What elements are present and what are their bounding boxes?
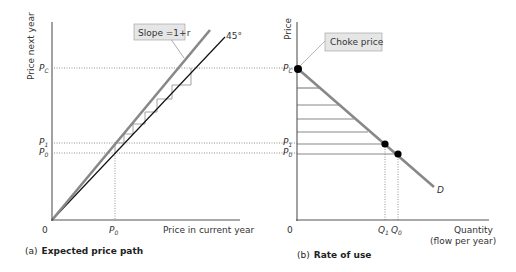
x-axis-label-line1: Quantity <box>454 225 494 235</box>
panel-b-caption: (b)Rate of use <box>297 250 371 260</box>
line-slope-1-plus-r <box>52 30 210 220</box>
pc-tick-label: PC <box>283 63 293 74</box>
panel-a-caption: (a)Expected price path <box>25 246 143 256</box>
demand-label: D <box>437 185 444 195</box>
panel-a: Slope =1+r 45° Price next year PC P1 P0 … <box>25 12 297 256</box>
choke-price-point <box>294 65 302 73</box>
figure: Slope =1+r 45° Price next year PC P1 P0 … <box>0 0 516 272</box>
x-axis-label-line2: (flow per year) <box>430 236 496 246</box>
choke-callout-leader <box>300 40 326 66</box>
slope-label: Slope =1+r <box>138 28 191 38</box>
q1-p1-point <box>381 140 388 147</box>
q0-p0-point <box>394 150 401 157</box>
staircase-path <box>115 68 191 153</box>
y-axis-label: Price <box>283 18 293 40</box>
x-axis-label: Price in current year <box>163 225 255 235</box>
origin-label: 0 <box>287 225 293 235</box>
p0-tick-label: P0 <box>39 147 48 158</box>
deg-45-label: 45° <box>226 31 242 41</box>
p0-tick-label: P0 <box>283 147 292 158</box>
q1-tick-label: Q1 <box>378 225 389 236</box>
pc-tick-label: PC <box>39 63 49 74</box>
y-axis-label: Price next year <box>26 12 36 80</box>
q0-tick-label: Q0 <box>391 225 402 236</box>
origin-label: 0 <box>42 225 48 235</box>
demand-curve <box>297 68 434 187</box>
p0-x-tick-label: P0 <box>109 225 118 236</box>
choke-price-label: Choke price <box>330 37 384 47</box>
panel-b: Choke price D Price PC P1 P0 0 Q1 Q0 Qua… <box>283 18 496 260</box>
line-45-degree <box>52 37 225 220</box>
